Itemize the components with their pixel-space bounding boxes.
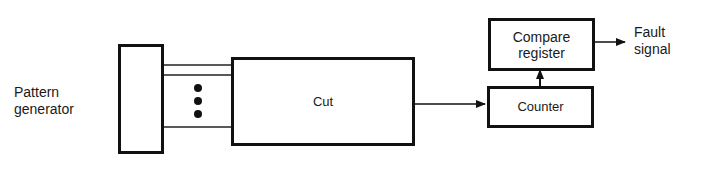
cut-box: Cut [231, 57, 415, 146]
compare-register-label-line1: Compare [513, 29, 571, 45]
pattern-generator-label: Pattern generator [14, 84, 74, 118]
pattern-generator-label-line2: generator [14, 101, 74, 118]
fault-signal-label-line2: signal [634, 41, 671, 58]
compare-register-box: Compare register [488, 18, 595, 71]
pattern-generator-label-line1: Pattern [14, 84, 74, 101]
cut-label: Cut [313, 94, 333, 110]
fault-signal-label-line1: Fault [634, 24, 671, 41]
fault-signal-label: Fault signal [634, 24, 671, 58]
counter-label: Counter [517, 99, 563, 115]
ellipsis-dots-icon [194, 84, 202, 118]
pattern-generator-box [118, 44, 164, 154]
compare-register-label-line2: register [518, 45, 565, 61]
counter-box: Counter [487, 86, 594, 128]
